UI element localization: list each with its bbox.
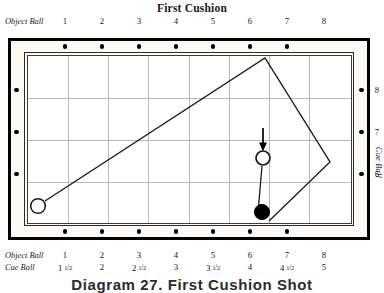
diamond-right-1 — [359, 88, 363, 92]
diamond-bottom-3 — [137, 229, 141, 233]
diamond-top-7 — [285, 44, 289, 48]
scale-top-tick-8: 8 — [309, 15, 339, 28]
grid-line-h-3 — [28, 182, 351, 183]
page-title: First Cushion — [0, 0, 384, 15]
diamond-top-3 — [137, 44, 141, 48]
scale-cue-tick-3: 2 1/2 — [124, 261, 154, 275]
diamond-bottom-1 — [63, 229, 67, 233]
figure-caption: Diagram 27. First Cushion Shot — [0, 276, 384, 293]
diamond-top-6 — [248, 44, 252, 48]
scale-top-tick-6: 6 — [235, 15, 265, 28]
diamond-bottom-5 — [211, 229, 215, 233]
scale-cue-tick-2: 2 — [87, 261, 117, 274]
scale-cue-tick-7: 4 1/2 — [272, 261, 302, 275]
scale-cue-tick-6: 4 — [235, 261, 265, 274]
scale-cue-tick-4: 3 — [161, 261, 191, 274]
scale-top-tick-5: 5 — [198, 15, 228, 28]
grid-line-h-1 — [28, 98, 351, 99]
diamond-bottom-6 — [248, 229, 252, 233]
diamond-top-5 — [211, 44, 215, 48]
rail-label-cue-ball-vertical: Cue Ball — [374, 147, 383, 178]
cue-ball-scale-bottom: Cue Ball 1 1/2 2 2 1/2 3 3 1/2 4 4 1/2 5 — [0, 261, 384, 274]
diamond-bottom-2 — [100, 229, 104, 233]
diamond-bottom-7 — [285, 229, 289, 233]
diamond-left-2 — [14, 130, 18, 134]
diamond-bottom-4 — [174, 229, 178, 233]
scale-top-tick-3: 3 — [124, 15, 154, 28]
pool-table — [8, 38, 370, 240]
diamond-top-1 — [63, 44, 67, 48]
diamond-right-3 — [359, 172, 363, 176]
diamond-left-3 — [14, 172, 18, 176]
scale-label-cue-ball: Cue Ball — [5, 261, 35, 274]
object-ball-scale-top: Object Ball 1 2 3 4 5 6 7 8 — [0, 15, 384, 28]
diamond-right-2 — [359, 130, 363, 134]
diamond-top-4 — [174, 44, 178, 48]
scale-label-object-ball-top: Object Ball — [5, 15, 43, 28]
grid-line-h-2 — [28, 140, 351, 141]
diamond-left-1 — [14, 88, 18, 92]
scale-top-tick-4: 4 — [161, 15, 191, 28]
scale-cue-tick-5: 3 1/2 — [198, 261, 228, 275]
rail-label-right-7: 7 — [370, 126, 384, 138]
scale-cue-tick-1: 1 1/2 — [50, 261, 80, 275]
scale-top-tick-7: 7 — [272, 15, 302, 28]
diamond-top-2 — [100, 44, 104, 48]
scale-top-tick-2: 2 — [87, 15, 117, 28]
scale-cue-tick-8: 5 — [309, 261, 339, 274]
rail-label-right-8: 8 — [370, 84, 384, 96]
scale-top-tick-1: 1 — [50, 15, 80, 28]
table-bed — [27, 55, 352, 224]
